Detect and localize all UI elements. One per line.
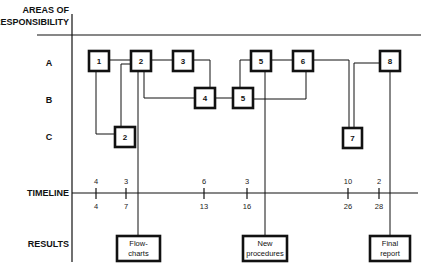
tick-top-value: 6 [202,177,206,186]
task-label: 5 [259,57,264,66]
connector-2a-4 [144,71,195,98]
row-label-a: A [46,58,53,68]
result-line1: Final [382,239,399,248]
task-box-2a: 2 [131,51,151,71]
tick-top-value: 3 [245,177,249,186]
timeline-tick: 3 16 [243,177,251,211]
task-label: 3 [181,57,186,66]
timeline-tick: 3 7 [124,177,128,211]
connector-7-8 [354,63,380,128]
task-label: 8 [388,57,393,66]
task-label: 4 [203,94,208,103]
connector-2c-2a [121,64,131,127]
connector-1-2c [96,71,115,134]
tick-bottom-value: 4 [94,202,98,211]
task-box-3: 3 [173,51,193,71]
timeline-ticks: 4 4 3 7 6 13 3 16 10 26 2 28 [94,177,383,211]
task-box-5b: 5 [233,88,253,108]
tick-top-value: 3 [124,177,128,186]
result-line2: charts [128,249,149,258]
tick-bottom-value: 13 [200,202,208,211]
tick-bottom-value: 26 [344,202,352,211]
timeline-tick: 10 26 [344,177,352,211]
task-label: 7 [350,134,355,143]
result-box-flowcharts: Flow- charts [117,236,160,261]
header-title-line1: AREAS OF [22,5,69,15]
connector-5b-5a [240,60,251,88]
timeline-tick: 6 13 [200,177,208,211]
responsibility-diagram: AREAS OF RESPONSIBILITY A B C TIMELINE R… [0,0,421,265]
task-box-8: 8 [380,51,400,71]
result-box-new-procedures: New procedures [243,236,287,261]
task-box-7: 7 [343,128,362,148]
task-box-2c: 2 [115,127,135,147]
task-label: 6 [301,57,306,66]
row-label-b: B [46,95,53,105]
header-title-line2: RESPONSIBILITY [0,17,69,27]
timeline-label: TIMELINE [27,188,69,198]
connector-3-4 [193,60,210,88]
task-box-1: 1 [89,51,109,71]
result-line2: report [380,249,401,258]
tick-top-value: 2 [377,177,381,186]
tick-bottom-value: 7 [124,202,128,211]
task-label: 1 [97,57,102,66]
result-line1: Flow- [129,239,148,248]
result-line2: procedures [246,249,284,258]
connector-5b-6 [253,71,306,99]
task-box-4: 4 [195,88,215,108]
task-box-6: 6 [293,51,313,71]
results-label: RESULTS [28,239,69,249]
connector-6-7 [314,60,349,128]
result-box-final-report: Final report [370,236,410,261]
tick-bottom-value: 16 [243,202,251,211]
tick-bottom-value: 28 [375,202,383,211]
row-label-c: C [46,132,53,142]
task-label: 2 [139,57,144,66]
result-line1: New [257,239,273,248]
task-label: 5 [241,94,246,103]
tick-top-value: 10 [344,177,352,186]
timeline-tick: 4 4 [94,177,98,211]
task-box-5a: 5 [251,51,271,71]
tick-top-value: 4 [94,177,98,186]
task-label: 2 [123,133,128,142]
timeline-tick: 2 28 [375,177,383,211]
